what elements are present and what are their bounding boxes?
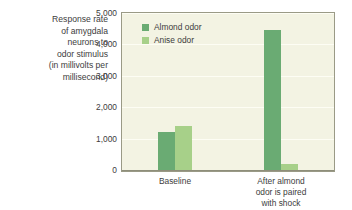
y-axis-tick-label: 5,000 <box>88 9 117 17</box>
legend-label-anise-odor: Anise odor <box>154 36 194 44</box>
y-axis-tick-label: 2,000 <box>88 103 117 111</box>
chart-plot-area: Almond odor Anise odor <box>121 12 335 172</box>
chart-gridline <box>122 107 334 108</box>
x-axis-category-label-line: Baseline <box>127 176 223 187</box>
bar-almond-odor <box>264 30 281 170</box>
y-axis-tick-label: 3,000 <box>88 72 117 80</box>
x-axis-line <box>122 170 334 171</box>
y-axis-tick-labels: 01,0002,0003,0004,0005,000 <box>88 0 117 210</box>
y-axis-tick-label: 1,000 <box>88 134 117 142</box>
chart-plot-inner: Almond odor Anise odor <box>122 13 334 171</box>
legend-label-almond-odor: Almond odor <box>154 23 202 31</box>
legend-item-almond-odor: Almond odor <box>142 21 202 33</box>
x-axis-category-label-after-pairing: After almondodor is pairedwith shock <box>233 176 329 209</box>
legend-swatch-almond-icon <box>142 24 149 31</box>
bar-almond-odor <box>158 132 175 170</box>
y-axis-tick-label: 0 <box>88 166 117 174</box>
x-axis-category-label-line: with shock <box>233 198 329 209</box>
x-axis-category-label-line: odor is paired <box>233 187 329 198</box>
legend-swatch-anise-icon <box>142 37 149 44</box>
chart-gridline <box>122 13 334 14</box>
x-axis-category-label-line: After almond <box>233 176 329 187</box>
chart-legend: Almond odor Anise odor <box>142 21 202 47</box>
chart-gridline <box>122 76 334 77</box>
x-axis-category-label-baseline: Baseline <box>127 176 223 187</box>
bar-anise-odor <box>281 164 298 170</box>
bar-anise-odor <box>175 126 192 170</box>
chart-gridline <box>122 139 334 140</box>
chart-gridline <box>122 44 334 45</box>
y-axis-tick-label: 4,000 <box>88 40 117 48</box>
